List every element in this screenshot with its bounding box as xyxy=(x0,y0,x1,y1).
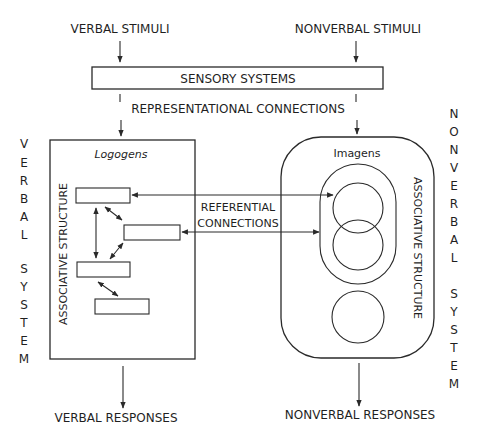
svg-text:M: M xyxy=(449,377,459,391)
svg-text:Y: Y xyxy=(449,305,458,319)
imagens-title: Imagens xyxy=(333,147,380,160)
nonverbal-stimuli-label: NONVERBAL STIMULI xyxy=(295,22,421,36)
svg-text:E: E xyxy=(20,334,28,348)
svg-text:S: S xyxy=(20,262,28,276)
svg-text:S: S xyxy=(450,287,458,301)
assoc-arrow-2-3 xyxy=(110,243,123,259)
svg-text:T: T xyxy=(19,316,28,330)
logogen-3 xyxy=(77,262,130,277)
nonverbal-associative-structure-label: ASSOCIATIVE STRUCTURE xyxy=(411,177,424,319)
dual-coding-diagram: VERBAL STIMULI NONVERBAL STIMULI SENSORY… xyxy=(0,0,479,446)
referential-connections-line2: CONNECTIONS xyxy=(197,217,278,230)
svg-text:S: S xyxy=(450,323,458,337)
svg-text:A: A xyxy=(20,210,29,224)
nonverbal-system-side-label: N O N V E R B A L S Y S T E M xyxy=(449,107,459,391)
assoc-arrow-1-2 xyxy=(105,207,122,220)
svg-text:A: A xyxy=(450,233,459,247)
svg-text:R: R xyxy=(20,174,28,188)
svg-text:M: M xyxy=(19,352,29,366)
svg-text:N: N xyxy=(450,107,459,121)
imagen-1 xyxy=(333,183,383,233)
svg-text:E: E xyxy=(450,359,458,373)
verbal-associative-structure-label: ASSOCIATIVE STRUCTURE xyxy=(57,183,70,325)
svg-text:L: L xyxy=(451,251,458,265)
verbal-system-side-label: V E R B A L S Y S T E M xyxy=(19,137,29,366)
svg-text:S: S xyxy=(20,298,28,312)
svg-text:B: B xyxy=(450,215,458,229)
svg-text:B: B xyxy=(20,192,28,206)
svg-text:T: T xyxy=(449,341,458,355)
logogens-title: Logogens xyxy=(94,148,147,161)
svg-text:E: E xyxy=(450,179,458,193)
svg-text:V: V xyxy=(450,161,459,175)
logogen-2 xyxy=(124,225,180,240)
sensory-systems-label: SENSORY SYSTEMS xyxy=(180,72,295,86)
svg-text:Y: Y xyxy=(19,280,28,294)
verbal-responses-label: VERBAL RESPONSES xyxy=(54,411,177,425)
verbal-stimuli-label: VERBAL STIMULI xyxy=(71,22,170,36)
verbal-system-box xyxy=(50,140,195,359)
svg-text:O: O xyxy=(449,125,458,139)
svg-text:N: N xyxy=(450,143,459,157)
svg-text:E: E xyxy=(20,156,28,170)
assoc-arrow-3-4 xyxy=(98,282,118,296)
svg-text:V: V xyxy=(20,137,29,151)
representational-connections-label: REPRESENTATIONAL CONNECTIONS xyxy=(131,102,345,116)
nonverbal-responses-label: NONVERBAL RESPONSES xyxy=(285,408,435,422)
imagen-group-outline xyxy=(320,164,396,284)
imagen-3 xyxy=(332,291,384,343)
logogen-1 xyxy=(76,188,130,203)
svg-text:R: R xyxy=(450,197,458,211)
logogen-4 xyxy=(95,299,149,314)
svg-text:L: L xyxy=(21,228,28,242)
imagen-2 xyxy=(333,220,383,270)
referential-connections-line1: REFERENTIAL xyxy=(201,201,276,214)
